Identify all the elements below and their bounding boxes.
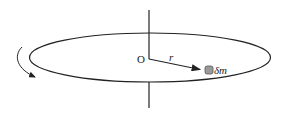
radius-label: r	[169, 51, 174, 63]
disk-diagram: O r δm	[0, 0, 288, 116]
radius-arrow	[149, 59, 200, 70]
origin-label: O	[137, 53, 145, 65]
mass-element-label: δm	[214, 64, 227, 76]
mass-element-icon	[205, 66, 213, 74]
disk-ellipse	[30, 33, 271, 82]
